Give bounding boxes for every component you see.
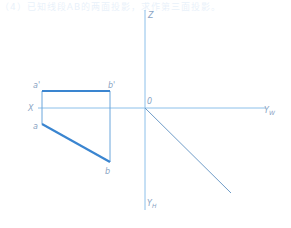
origin-label: 0 <box>147 97 152 106</box>
yw-axis-label: YW <box>264 106 276 116</box>
point-label-b: b <box>105 167 110 176</box>
segment-a-b <box>42 124 110 162</box>
point-label-b-prime: b' <box>108 81 115 90</box>
point-label-a-prime: a' <box>33 81 40 90</box>
z-axis-label: Z <box>147 11 154 20</box>
auxiliary-45-line <box>145 108 231 193</box>
projection-diagram: Z X 0 YW YH a' b' a b <box>0 0 291 228</box>
x-axis-label: X <box>27 104 34 113</box>
yh-axis-label: YH <box>147 199 157 209</box>
point-label-a: a <box>33 122 38 131</box>
